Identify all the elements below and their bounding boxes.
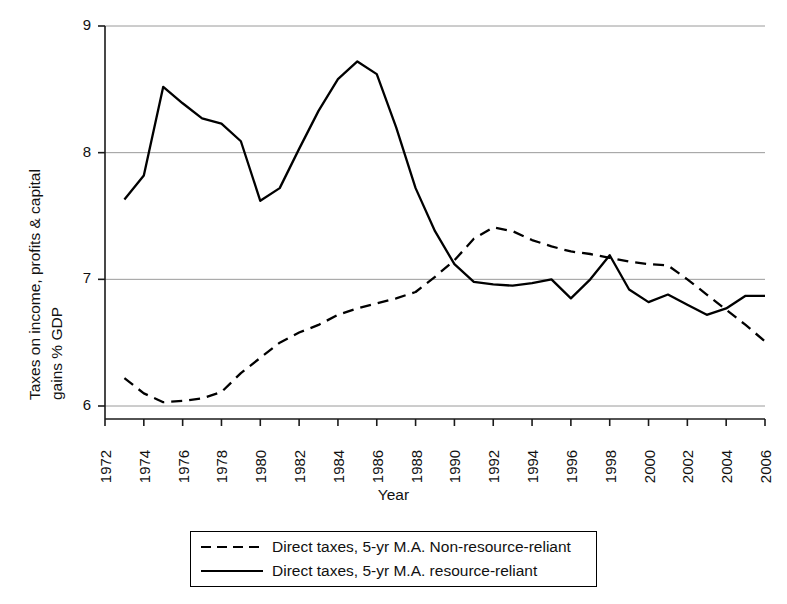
x-tick-label: 2004 <box>718 439 735 495</box>
x-tick-label: 1982 <box>291 439 308 495</box>
plot-area <box>0 0 787 604</box>
y-axis-label-line1: Taxes on income, profits & capital <box>26 169 44 400</box>
series-line-1 <box>124 227 765 402</box>
y-tick-label: 9 <box>65 16 91 33</box>
x-tick-label: 1996 <box>562 439 579 495</box>
x-tick-label: 1988 <box>407 439 424 495</box>
series-layer <box>124 61 765 402</box>
gridlines <box>105 26 765 406</box>
y-axis-label-line2: gains % GDP <box>48 307 66 400</box>
x-tick-label: 2000 <box>640 439 657 495</box>
solid-line-swatch-icon <box>201 570 263 573</box>
dashed-line-swatch-icon <box>201 546 263 549</box>
legend-label: Direct taxes, 5-yr M.A. Non-resource-rel… <box>272 538 571 556</box>
x-tick-label: 1972 <box>97 439 114 495</box>
x-tick-label: 1998 <box>601 439 618 495</box>
x-tick-label: 1994 <box>524 439 541 495</box>
x-tick-label: 1984 <box>329 439 346 495</box>
x-tick-label: 1990 <box>446 439 463 495</box>
chart-figure: Taxes on income, profits & capital gains… <box>0 0 787 604</box>
y-tick-label: 6 <box>65 396 91 413</box>
chart-legend: Direct taxes, 5-yr M.A. Non-resource-rel… <box>190 531 597 587</box>
x-tick-label: 1980 <box>252 439 269 495</box>
axis-spines <box>105 26 765 419</box>
x-tick-label: 2002 <box>679 439 696 495</box>
x-tick-label: 2006 <box>757 439 774 495</box>
legend-label: Direct taxes, 5-yr M.A. resource-reliant <box>272 562 537 580</box>
x-tick-label: 1992 <box>485 439 502 495</box>
legend-item-resource-reliant: Direct taxes, 5-yr M.A. resource-reliant <box>201 559 537 583</box>
series-line-2 <box>124 61 765 314</box>
x-axis-label: Year <box>0 486 787 504</box>
x-tick-label: 1974 <box>135 439 152 495</box>
x-tick-label: 1986 <box>368 439 385 495</box>
y-tick-label: 8 <box>65 143 91 160</box>
x-tick-label: 1978 <box>213 439 230 495</box>
x-tick-label: 1976 <box>174 439 191 495</box>
y-tick-label: 7 <box>65 269 91 286</box>
legend-item-non-resource-reliant: Direct taxes, 5-yr M.A. Non-resource-rel… <box>201 535 571 559</box>
